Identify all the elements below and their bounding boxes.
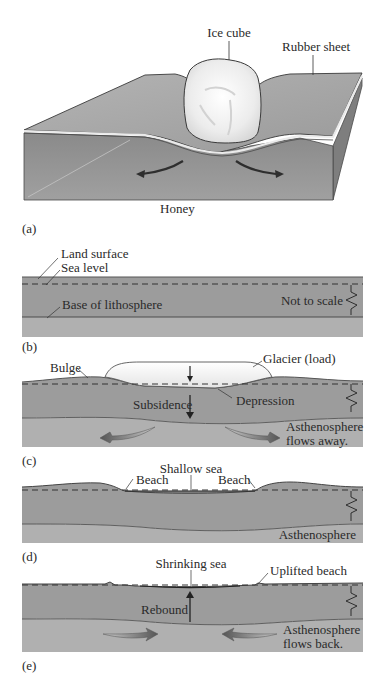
label-beach-left: Beach — [136, 472, 169, 487]
label-land-surface: Land surface — [61, 246, 129, 261]
label-beach-right: Beach — [218, 472, 251, 487]
label-depression: Depression — [236, 393, 295, 408]
label-ice-cube: Ice cube — [207, 25, 251, 40]
label-rubber-sheet: Rubber sheet — [282, 39, 351, 54]
label-asthenosphere-flows-back-2: flows back. — [283, 636, 343, 651]
label-bulge: Bulge — [50, 360, 81, 375]
label-rebound: Rebound — [141, 602, 188, 617]
label-shrinking-sea: Shrinking sea — [155, 556, 226, 571]
isostasy-figure: Ice cube Rubber sheet Honey (a) Land sur… — [0, 0, 387, 675]
lithosphere-layer — [22, 582, 363, 625]
label-sea-level: Sea level — [61, 260, 109, 275]
label-asthenosphere-flows-away-2: flows away. — [286, 433, 348, 448]
panel-tag-c: (c) — [22, 453, 36, 468]
panel-tag-e: (e) — [22, 658, 36, 673]
label-not-to-scale: Not to scale — [281, 293, 343, 308]
panel-tag-d: (d) — [22, 549, 37, 564]
label-glacier: Glacier (load) — [263, 351, 336, 366]
label-asthenosphere-flows-back-1: Asthenosphere — [283, 622, 360, 637]
beach-left-leader — [126, 479, 133, 489]
label-uplifted-beach: Uplifted beach — [270, 563, 347, 578]
asthenosphere-layer — [22, 317, 363, 337]
panel-b: Land surface Sea level Base of lithosphe… — [22, 246, 363, 354]
panel-e: Shrinking sea Uplifted beach Rebound Ast… — [22, 556, 363, 673]
panel-a: Ice cube Rubber sheet Honey (a) — [22, 25, 362, 236]
label-subsidence: Subsidence — [133, 397, 192, 412]
panel-d: Shallow sea Beach Beach Asthenosphere (d… — [22, 461, 363, 564]
lithosphere-layer — [22, 482, 363, 531]
uplifted-beach-leader — [258, 573, 268, 584]
label-asthenosphere: Asthenosphere — [279, 527, 356, 542]
label-base-of-lithosphere: Base of lithosphere — [62, 297, 163, 312]
ice-cube — [184, 59, 261, 143]
panel-tag-a: (a) — [22, 221, 36, 236]
label-asthenosphere-flows-away-1: Asthenosphere — [286, 419, 363, 434]
panel-tag-b: (b) — [22, 339, 37, 354]
panel-c: Bulge Glacier (load) Subsidence Depressi… — [22, 351, 363, 468]
label-honey: Honey — [160, 201, 195, 216]
label-shallow-sea: Shallow sea — [160, 461, 223, 476]
